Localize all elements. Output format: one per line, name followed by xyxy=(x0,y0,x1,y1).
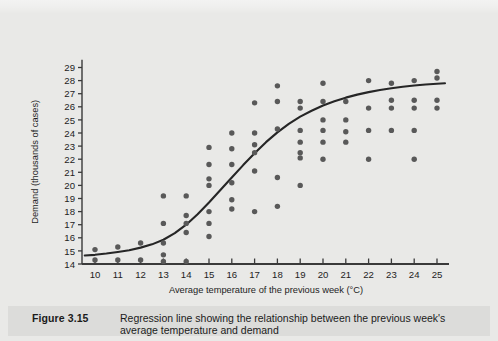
x-axis-tick-label: 19 xyxy=(295,269,306,280)
scatter-point xyxy=(252,209,257,214)
y-axis-tick-label: 24 xyxy=(64,128,75,139)
x-axis-tick-label: 22 xyxy=(363,269,374,280)
x-axis-tick-label: 16 xyxy=(226,269,237,280)
scatter-point xyxy=(366,105,371,110)
scatter-point xyxy=(252,150,257,155)
y-axis-tick-label: 29 xyxy=(64,62,75,73)
scatter-point xyxy=(206,234,211,239)
y-axis-label: Demand (thousands of cases) xyxy=(30,100,40,224)
x-axis-tick-label: 25 xyxy=(432,269,443,280)
y-axis-tick-label: 28 xyxy=(64,75,75,86)
x-axis-tick-label: 17 xyxy=(249,269,260,280)
scatter-point xyxy=(229,146,234,151)
scatter-point xyxy=(320,139,325,144)
scatter-point xyxy=(412,128,417,133)
chart-area: 1415161718192021222324252627282910111213… xyxy=(0,0,498,296)
scatter-plot-svg: 1415161718192021222324252627282910111213… xyxy=(0,0,498,296)
scatter-point xyxy=(206,176,211,181)
y-axis-tick-label: 18 xyxy=(64,206,75,217)
figure-number-label: Figure 3.15 xyxy=(8,306,110,324)
x-axis-tick-label: 18 xyxy=(272,269,283,280)
figure-caption-text: Regression line showing the relationship… xyxy=(110,306,490,337)
scatter-point xyxy=(184,230,189,235)
scatter-point xyxy=(206,183,211,188)
scatter-point xyxy=(389,105,394,110)
scatter-point xyxy=(115,244,120,249)
scatter-point xyxy=(320,128,325,133)
figure-caption-bar: Figure 3.15 Regression line showing the … xyxy=(8,306,490,336)
x-axis-tick-label: 24 xyxy=(409,269,420,280)
x-axis-tick-label: 15 xyxy=(204,269,215,280)
scatter-point xyxy=(298,155,303,160)
scatter-point xyxy=(320,157,325,162)
scatter-point xyxy=(161,240,166,245)
scatter-point xyxy=(229,162,234,167)
scatter-point xyxy=(434,105,439,110)
scatter-point xyxy=(434,75,439,80)
y-axis-tick-label: 25 xyxy=(64,115,75,126)
scatter-point xyxy=(252,100,257,105)
scatter-point xyxy=(298,139,303,144)
scatter-point xyxy=(252,168,257,173)
scatter-point xyxy=(298,150,303,155)
scatter-point xyxy=(412,98,417,103)
scatter-point xyxy=(161,252,166,257)
scatter-point xyxy=(412,78,417,83)
scatter-point xyxy=(298,99,303,104)
scatter-point xyxy=(92,257,97,262)
scatter-point xyxy=(412,157,417,162)
scatter-point xyxy=(161,221,166,226)
scatter-point xyxy=(229,197,234,202)
scatter-point xyxy=(161,193,166,198)
scatter-point xyxy=(366,128,371,133)
scatter-point xyxy=(366,78,371,83)
scatter-point xyxy=(252,130,257,135)
scatter-point xyxy=(275,99,280,104)
y-axis-tick-label: 26 xyxy=(64,101,75,112)
x-axis-tick-label: 14 xyxy=(181,269,192,280)
scatter-point xyxy=(206,209,211,214)
y-axis-tick-label: 19 xyxy=(64,193,75,204)
y-axis-tick-label: 22 xyxy=(64,154,75,165)
y-axis-tick-label: 27 xyxy=(64,88,75,99)
y-axis-tick-label: 21 xyxy=(64,167,75,178)
scatter-point xyxy=(138,240,143,245)
scatter-point xyxy=(320,99,325,104)
x-axis-tick-label: 13 xyxy=(158,269,169,280)
scatter-point xyxy=(161,259,166,264)
scatter-point xyxy=(434,69,439,74)
scatter-point xyxy=(184,259,189,264)
scatter-point xyxy=(389,81,394,86)
scatter-point xyxy=(298,128,303,133)
scatter-point xyxy=(343,117,348,122)
scatter-point xyxy=(206,162,211,167)
scatter-point xyxy=(412,105,417,110)
scatter-point xyxy=(389,128,394,133)
y-axis-tick-label: 15 xyxy=(64,246,75,257)
scatter-point xyxy=(115,257,120,262)
x-axis-tick-label: 21 xyxy=(340,269,351,280)
scatter-point xyxy=(275,83,280,88)
y-axis-tick-label: 14 xyxy=(64,259,75,270)
scatter-point xyxy=(138,257,143,262)
scatter-point xyxy=(184,213,189,218)
x-axis-tick-label: 23 xyxy=(386,269,397,280)
x-axis-tick-label: 10 xyxy=(90,269,101,280)
x-axis-tick-label: 20 xyxy=(318,269,329,280)
scatter-point xyxy=(366,157,371,162)
scatter-point xyxy=(252,142,257,147)
y-axis-tick-label: 23 xyxy=(64,141,75,152)
scatter-point xyxy=(184,221,189,226)
scatter-point xyxy=(298,105,303,110)
scatter-point xyxy=(229,206,234,211)
scatter-point xyxy=(320,117,325,122)
figure-page: 1415161718192021222324252627282910111213… xyxy=(0,0,498,341)
scatter-point xyxy=(343,129,348,134)
scatter-point xyxy=(343,139,348,144)
x-axis-label: Average temperature of the previous week… xyxy=(169,285,363,295)
y-axis-tick-label: 17 xyxy=(64,219,75,230)
scatter-point xyxy=(229,180,234,185)
scatter-point xyxy=(275,126,280,131)
x-axis-tick-label: 11 xyxy=(113,269,123,280)
scatter-point xyxy=(434,98,439,103)
